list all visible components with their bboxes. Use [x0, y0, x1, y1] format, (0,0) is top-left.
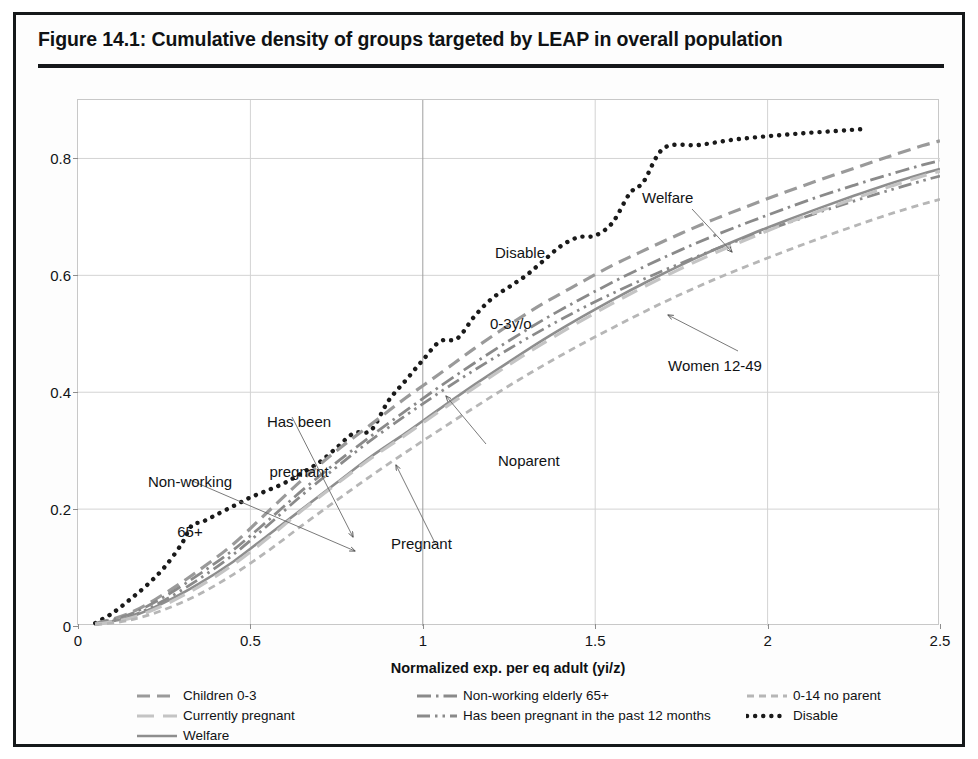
chart-container: 00.20.40.60.8 00.511.522.5 Non-working 6…	[16, 15, 968, 750]
y-tick-mark	[73, 158, 78, 159]
legend-swatch-icon	[746, 710, 788, 722]
legend-item[interactable]: Currently pregnant	[136, 708, 295, 723]
legend-item[interactable]: Disable	[746, 708, 838, 723]
legend-swatch-icon	[746, 690, 788, 702]
x-tick-label: 1.5	[585, 632, 606, 649]
legend-label: Non-working elderly 65+	[463, 688, 609, 703]
legend-item[interactable]: Welfare	[136, 728, 229, 743]
chart-legend: Children 0-3Currently pregnantWelfareNon…	[136, 688, 956, 746]
y-tick-label: 0	[63, 618, 71, 635]
x-tick-label: 1	[419, 632, 427, 649]
legend-item[interactable]: Has been pregnant in the past 12 months	[416, 708, 711, 723]
annotation-has-been-pregnant: Has been pregnant	[244, 380, 354, 514]
legend-label: Children 0-3	[183, 688, 257, 703]
x-axis-title: Normalized exp. per eq adult (yi/z)	[77, 660, 939, 676]
legend-label: Disable	[793, 708, 838, 723]
legend-swatch-icon	[136, 730, 178, 742]
x-tick-mark	[78, 624, 79, 629]
x-tick-mark	[768, 624, 769, 629]
plot-area: 00.20.40.60.8 00.511.522.5 Non-working 6…	[77, 99, 939, 625]
y-tick-mark	[73, 275, 78, 276]
legend-item[interactable]: 0-14 no parent	[746, 688, 881, 703]
x-tick-label: 2	[763, 632, 771, 649]
x-tick-label: 2.5	[930, 632, 951, 649]
legend-label: Has been pregnant in the past 12 months	[463, 708, 711, 723]
legend-item[interactable]: Non-working elderly 65+	[416, 688, 609, 703]
x-tick-label: 0	[74, 632, 82, 649]
y-tick-label: 0.6	[50, 267, 71, 284]
legend-swatch-icon	[416, 710, 458, 722]
y-tick-label: 0.8	[50, 150, 71, 167]
figure-frame: Figure 14.1: Cumulative density of group…	[13, 12, 965, 747]
y-tick-mark	[73, 509, 78, 510]
y-tick-mark	[73, 392, 78, 393]
x-tick-label: 0.5	[240, 632, 261, 649]
legend-item[interactable]: Children 0-3	[136, 688, 257, 703]
legend-label: Welfare	[183, 728, 229, 743]
x-tick-mark	[940, 624, 941, 629]
x-tick-mark	[423, 624, 424, 629]
x-tick-mark	[595, 624, 596, 629]
legend-label: Currently pregnant	[183, 708, 295, 723]
legend-swatch-icon	[136, 710, 178, 722]
legend-swatch-icon	[416, 690, 458, 702]
annotation-0-3yo: 0-3y/o	[490, 316, 532, 333]
annotation-non-working-65: Non-working 65+	[121, 440, 259, 574]
legend-label: 0-14 no parent	[793, 688, 881, 703]
annotation-noparent: Noparent	[498, 453, 560, 470]
annotation-women-12-49: Women 12-49	[668, 358, 762, 375]
annotation-pregnant: Pregnant	[391, 536, 452, 553]
y-tick-label: 0.4	[50, 384, 71, 401]
legend-swatch-icon	[136, 690, 178, 702]
annotation-disable: Disable	[495, 245, 545, 262]
annotation-welfare: Welfare	[642, 190, 693, 207]
y-tick-label: 0.2	[50, 501, 71, 518]
x-tick-mark	[250, 624, 251, 629]
